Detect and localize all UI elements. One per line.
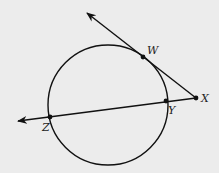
point-W <box>141 55 146 60</box>
point-Z <box>48 115 53 120</box>
point-Y <box>164 99 169 104</box>
label-X: X <box>200 92 210 105</box>
label-W: W <box>147 44 160 57</box>
point-X <box>194 96 199 101</box>
secant-tangent-diagram: WXYZ <box>0 0 219 173</box>
label-Z: Z <box>41 121 50 134</box>
label-Y: Y <box>168 104 177 117</box>
